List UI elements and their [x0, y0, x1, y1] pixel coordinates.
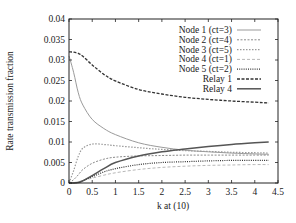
- y-tick-label: 0.035: [44, 35, 66, 45]
- x-tick-label: 0: [67, 187, 72, 197]
- series-layer: [69, 52, 269, 183]
- x-tick-label: 1: [113, 187, 118, 197]
- y-tick-label: 0.03: [48, 55, 65, 65]
- x-tick-label: 2.5: [179, 187, 191, 197]
- x-tick-label: 3: [206, 187, 211, 197]
- x-tick-label: 4: [252, 187, 257, 197]
- axes: 00.511.522.533.544.500.0050.010.0150.020…: [44, 14, 285, 197]
- y-tick-label: 0.02: [48, 96, 65, 106]
- series-line-2: [69, 155, 269, 183]
- x-tick-label: 4.5: [272, 187, 284, 197]
- y-axis-title: Rate transmission fraction: [5, 51, 15, 151]
- line-chart: 00.511.522.533.544.500.0050.010.0150.020…: [0, 0, 296, 223]
- x-tick-label: 0.5: [86, 187, 98, 197]
- legend-label: Relay 4: [203, 84, 233, 94]
- x-tick-label: 2: [160, 187, 165, 197]
- y-tick-label: 0.01: [48, 137, 65, 147]
- x-axis-title: k at (10): [157, 201, 189, 212]
- y-tick-label: 0.015: [44, 117, 66, 127]
- plot-frame: [69, 19, 278, 183]
- y-tick-label: 0: [60, 178, 65, 188]
- y-tick-label: 0.005: [44, 158, 66, 168]
- x-tick-label: 3.5: [226, 187, 238, 197]
- legend-label: Relay 1: [203, 74, 233, 84]
- y-tick-label: 0.04: [48, 14, 65, 24]
- series-line-3: [69, 144, 269, 183]
- legend: Node 1 (ct=3)Node 2 (ct=4)Node 3 (ct=5)N…: [179, 25, 261, 94]
- x-tick-label: 1.5: [133, 187, 145, 197]
- y-tick-label: 0.025: [44, 76, 66, 86]
